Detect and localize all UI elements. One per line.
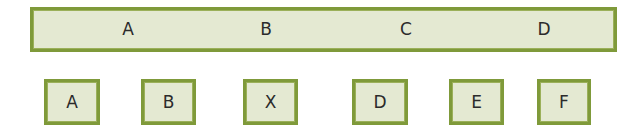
bar-item-a: A (122, 10, 134, 49)
box-x: X (243, 79, 298, 125)
box-d: D (352, 79, 408, 125)
bar-item-c: C (400, 10, 412, 49)
box-a: A (44, 79, 100, 125)
box-f: F (537, 79, 591, 125)
bar-item-b: B (260, 10, 272, 49)
box-label: X (265, 92, 277, 112)
box-label: B (163, 92, 175, 112)
box-label: D (373, 92, 386, 112)
box-label: A (66, 92, 78, 112)
bar-item-d: D (537, 10, 550, 49)
box-label: E (471, 92, 482, 112)
sequence-bar: A B C D (30, 7, 617, 52)
box-b: B (141, 79, 196, 125)
box-e: E (449, 79, 504, 125)
box-label: F (559, 92, 569, 112)
